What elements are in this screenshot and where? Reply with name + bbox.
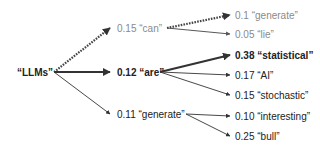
edge-generate-to-leaf-5 <box>186 114 230 116</box>
node-probability: 0.11 <box>117 109 139 120</box>
leaf-node: 0.38 “statistical” <box>235 50 313 61</box>
node-probability: 0.12 <box>117 67 139 78</box>
node-labels: “LLMs”0.15 “can”0.12 “are”0.11 “generate… <box>17 10 313 142</box>
root-node-llms: “LLMs” <box>17 67 53 78</box>
token-probability-tree: “LLMs”0.15 “can”0.12 “are”0.11 “generate… <box>0 0 320 148</box>
leaf-node: 0.1 “generate” <box>235 10 298 21</box>
leaf-probability: 0.15 <box>235 90 257 101</box>
leaf-probability: 0.25 <box>235 131 257 142</box>
leaf-node: 0.17 “AI” <box>235 70 273 81</box>
edge-can-to-leaf-0 <box>167 15 230 28</box>
leaf-token: “statistical” <box>257 50 313 61</box>
leaf-node: 0.25 “bull” <box>235 131 279 142</box>
node-token: “generate” <box>139 109 185 120</box>
edge-llms-to-generate <box>54 72 110 114</box>
node-token: “can” <box>139 23 162 34</box>
leaf-token: “generate” <box>252 10 298 21</box>
edge-can-to-leaf-1 <box>167 28 230 34</box>
edge-are-to-leaf-4 <box>160 72 230 95</box>
leaf-token: “stochastic” <box>257 90 308 101</box>
leaf-node: 0.05 “lie” <box>235 29 274 40</box>
edge-generate-to-leaf-6 <box>186 114 230 136</box>
leaf-node: 0.15 “stochastic” <box>235 90 308 101</box>
node-probability: 0.15 <box>117 23 139 34</box>
node-are: 0.12 “are” <box>117 67 164 78</box>
node-token: “are” <box>139 67 164 78</box>
leaf-token: “AI” <box>257 70 273 81</box>
leaf-token: “bull” <box>257 131 279 142</box>
leaf-probability: 0.1 <box>235 10 252 21</box>
leaf-probability: 0.38 <box>235 50 257 61</box>
leaf-probability: 0.17 <box>235 70 257 81</box>
node-can: 0.15 “can” <box>117 23 162 34</box>
leaf-probability: 0.05 <box>235 29 257 40</box>
edge-are-to-leaf-3 <box>160 72 230 75</box>
leaf-node: 0.10 “interesting” <box>235 111 310 122</box>
leaf-token: “lie” <box>257 29 274 40</box>
node-generate: 0.11 “generate” <box>117 109 185 120</box>
edge-are-to-leaf-2 <box>160 55 230 72</box>
edge-llms-to-can <box>54 28 110 72</box>
leaf-token: “interesting” <box>257 111 310 122</box>
leaf-probability: 0.10 <box>235 111 257 122</box>
